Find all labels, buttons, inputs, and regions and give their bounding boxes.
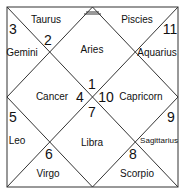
house-7-sign: Libra <box>81 138 103 148</box>
house-8-number: 8 <box>129 147 137 161</box>
house-7-number: 7 <box>88 105 96 119</box>
house-3-sign: Gemini <box>6 48 38 58</box>
house-10-number: 10 <box>98 90 114 104</box>
house-8-sign: Scorpio <box>120 169 154 179</box>
house-10-sign: Capricorn <box>119 92 162 102</box>
house-11-number: 11 <box>163 22 178 36</box>
house-1-sign: Aries <box>81 45 104 55</box>
house-2-sign: Taurus <box>31 15 61 25</box>
house-4-number: 4 <box>76 90 84 104</box>
house-2-number: 2 <box>44 33 52 47</box>
house-5-number: 5 <box>9 110 17 124</box>
house-11-sign: Aquarius <box>137 48 176 58</box>
house-9-number: 9 <box>167 110 175 124</box>
house-6-sign: Virgo <box>36 169 59 179</box>
house-4-sign: Cancer <box>36 92 68 102</box>
house-6-number: 6 <box>45 147 53 161</box>
house-1-number: 1 <box>88 77 96 91</box>
house-12-sign: Piscies <box>121 15 153 25</box>
house-5-sign: Leo <box>9 136 26 146</box>
house-9-sign: Sagittarius <box>140 137 178 145</box>
house-3-number: 3 <box>9 22 17 36</box>
